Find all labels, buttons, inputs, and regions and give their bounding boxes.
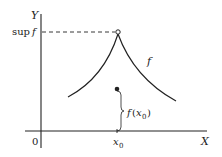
value-brace [117, 91, 124, 131]
function-value-label: f ( x 0 ) [126, 107, 151, 121]
supremum-open-point [116, 30, 120, 34]
y-axis-label: Y [31, 9, 40, 22]
sup-label: sup [12, 26, 30, 37]
x0-label: x 0 [113, 136, 123, 150]
svg-text:0: 0 [119, 142, 123, 150]
function-curve-left [68, 34, 118, 97]
svg-text:0: 0 [142, 113, 146, 121]
diagram-canvas: Y sup f f f ( x 0 ) 0 x 0 X [0, 0, 222, 157]
x-axis-label: X [200, 135, 210, 148]
origin-label: 0 [32, 136, 38, 147]
curve-f-label: f [146, 55, 153, 68]
svg-text:): ) [147, 107, 151, 118]
sup-f-label: f [31, 26, 38, 37]
